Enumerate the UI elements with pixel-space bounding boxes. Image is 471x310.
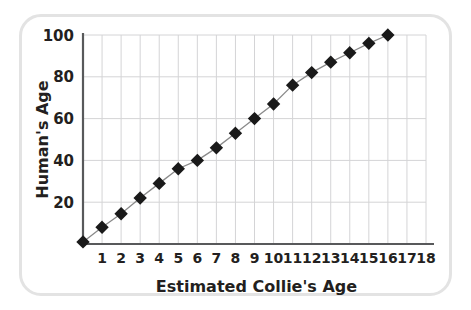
data-point-marker	[345, 48, 355, 58]
x-axis-tick-labels: 123456789101112131415161718	[97, 250, 436, 266]
data-point-marker	[326, 57, 336, 67]
grid-lines	[83, 35, 426, 244]
data-point-marker	[192, 155, 202, 165]
x-axis-tick-label: 14	[340, 250, 360, 266]
x-axis-tick-label: 11	[283, 250, 302, 266]
x-axis-tick-label: 2	[116, 250, 126, 266]
chart-plot-area: 20406080100 123456789101112131415161718 …	[22, 17, 455, 299]
y-axis-tick-label: 80	[53, 68, 74, 86]
x-axis-tick-label: 12	[302, 250, 321, 266]
x-axis-tick-label: 18	[416, 250, 435, 266]
x-axis-tick-label: 9	[250, 250, 260, 266]
x-axis-tick-label: 17	[397, 250, 416, 266]
x-axis-tick-label: 15	[359, 250, 378, 266]
y-axis-tick-label: 60	[53, 110, 74, 128]
axis-lines	[83, 33, 434, 244]
y-axis-title: Human's Age	[33, 80, 52, 198]
x-axis-tick-label: 4	[154, 250, 164, 266]
x-axis-title: Estimated Collie's Age	[156, 277, 357, 296]
x-axis-tick-label: 6	[192, 250, 202, 266]
data-point-marker	[307, 68, 317, 78]
data-point-marker	[364, 38, 374, 48]
x-axis-tick-label: 10	[264, 250, 284, 266]
x-axis-tick-label: 7	[212, 250, 222, 266]
y-axis-tick-label: 100	[43, 27, 74, 45]
y-axis-tick-label: 40	[53, 152, 74, 170]
x-axis-tick-label: 13	[321, 250, 340, 266]
collie-age-line-chart: 20406080100 123456789101112131415161718 …	[22, 17, 455, 299]
x-axis-tick-label: 8	[231, 250, 241, 266]
x-axis-tick-label: 3	[135, 250, 145, 266]
x-axis-tick-label: 16	[378, 250, 397, 266]
chart-card: 20406080100 123456789101112131415161718 …	[19, 14, 452, 296]
x-axis-tick-label: 5	[173, 250, 183, 266]
x-axis-tick-label: 1	[97, 250, 107, 266]
y-axis-tick-label: 20	[53, 194, 74, 212]
data-point-marker	[383, 30, 393, 40]
